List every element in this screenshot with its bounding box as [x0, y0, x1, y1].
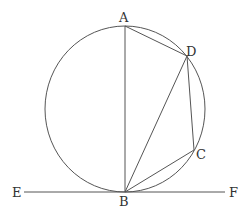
segment-cb	[125, 150, 194, 192]
label-d: D	[186, 44, 196, 59]
label-f: F	[229, 185, 238, 200]
label-b: B	[119, 194, 129, 209]
label-c: C	[196, 147, 206, 162]
geometry-diagram: A B C D E F	[0, 0, 247, 211]
label-e: E	[12, 185, 22, 200]
segment-dc	[187, 56, 194, 150]
segment-ad	[125, 26, 187, 56]
label-a: A	[118, 10, 129, 25]
